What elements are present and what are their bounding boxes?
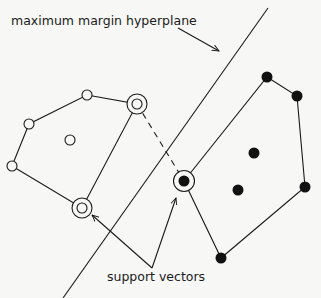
filled-point <box>292 91 303 102</box>
filled-point <box>262 72 273 83</box>
open-class-hull <box>12 95 137 208</box>
open-point <box>65 135 75 145</box>
margin-dashed-line <box>137 104 184 181</box>
open-point <box>7 161 17 171</box>
open-point <box>82 90 92 100</box>
open-points <box>7 90 147 218</box>
open-point <box>24 119 34 129</box>
svm-diagram <box>0 0 321 298</box>
support-vectors-label: support vectors <box>107 269 205 284</box>
filled-point-support-vector <box>179 176 190 187</box>
hyperplane-label: maximum margin hyperplane <box>11 13 197 28</box>
open-point-support-vector <box>77 203 87 213</box>
filled-point <box>249 148 260 159</box>
filled-class-hull <box>184 77 305 258</box>
filled-point <box>216 253 227 264</box>
open-point-support-vector <box>132 99 142 109</box>
hyperplane-line <box>63 8 268 298</box>
filled-point <box>233 185 244 196</box>
support-vector-arrow-left <box>92 215 152 268</box>
filled-point <box>300 182 311 193</box>
hyperplane-arrow <box>178 28 219 51</box>
filled-points <box>174 72 311 264</box>
support-vector-arrow-right <box>152 198 176 268</box>
